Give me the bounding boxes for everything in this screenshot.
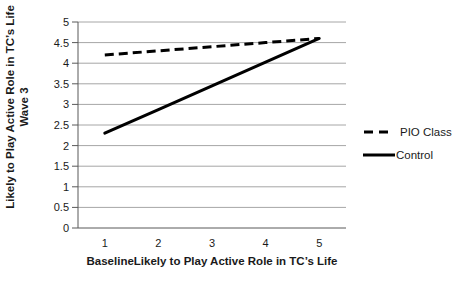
y-tick-label: 2.5 — [54, 119, 69, 131]
x-tick-label: 5 — [316, 237, 322, 249]
y-tick-label: 2 — [63, 140, 69, 152]
y-tick-label: 1 — [63, 181, 69, 193]
y-tick-label: 3.5 — [54, 78, 69, 90]
y-tick-label: 0 — [63, 222, 69, 234]
y-tick-label: 5 — [63, 16, 69, 28]
y-tick-label: 4.5 — [54, 37, 69, 49]
x-tick-label: 2 — [155, 237, 161, 249]
y-tick-label: 4 — [63, 57, 69, 69]
y-tick-label: 1.5 — [54, 160, 69, 172]
x-tick-label: 3 — [209, 237, 215, 249]
y-tick-label: 3 — [63, 98, 69, 110]
dashed-line-icon — [363, 129, 395, 135]
x-axis-title: BaselineLikely to Play Active Role in TC… — [78, 255, 346, 267]
legend-label-pio-class: PIO Class — [400, 126, 452, 138]
x-tick-label: 1 — [102, 237, 108, 249]
legend-item-pio-class: PIO Class — [363, 126, 452, 138]
y-tick-label: 0.5 — [54, 201, 69, 213]
legend-item-control: Control — [363, 149, 452, 161]
legend-label-control: Control — [396, 149, 433, 161]
solid-line-icon — [363, 152, 395, 158]
x-tick-label: 4 — [263, 237, 269, 249]
legend: PIO Class Control — [363, 126, 452, 161]
chart: Likely to Play Active Role in TC’s Life … — [0, 0, 470, 282]
